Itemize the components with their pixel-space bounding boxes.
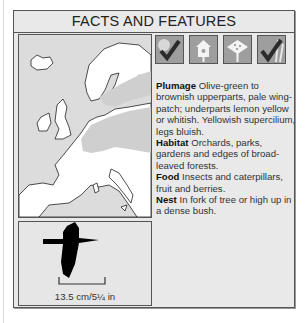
size-silhouette-box: 13.5 cm/5¼ in bbox=[18, 221, 152, 306]
nest-text: In fork of tree or high up in a dense bu… bbox=[156, 194, 291, 216]
panel-title: FACTS AND FEATURES bbox=[14, 11, 294, 33]
food-fact: Food Insects and caterpillars, fruit and… bbox=[156, 171, 296, 194]
page-edge-line bbox=[3, 0, 4, 323]
habitat-icons-row bbox=[155, 35, 286, 64]
reeds-habitat-icon bbox=[257, 35, 286, 64]
nest-label: Nest bbox=[156, 194, 177, 205]
bird-silhouette-icon bbox=[19, 222, 151, 287]
habitat-label: Habitat bbox=[156, 137, 189, 148]
size-caption: 13.5 cm/5¼ in bbox=[19, 291, 151, 302]
bird-table-icon bbox=[223, 35, 252, 64]
facts-and-features-panel: FACTS AND FEATURES bbox=[13, 10, 295, 308]
plumage-label: Plumage bbox=[156, 80, 196, 91]
habitat-fact: Habitat Orchards, parks, gardens and edg… bbox=[156, 137, 296, 171]
distribution-map bbox=[18, 34, 152, 218]
nestbox-icon bbox=[189, 35, 218, 64]
food-label: Food bbox=[156, 171, 179, 182]
nest-fact: Nest In fork of tree or high up in a den… bbox=[156, 194, 296, 217]
plumage-fact: Plumage Olive-green to brownish upperpar… bbox=[156, 80, 296, 137]
europe-map-icon bbox=[19, 35, 151, 217]
facts-text: Plumage Olive-green to brownish upperpar… bbox=[156, 80, 296, 217]
woodland-habitat-icon bbox=[155, 35, 184, 64]
